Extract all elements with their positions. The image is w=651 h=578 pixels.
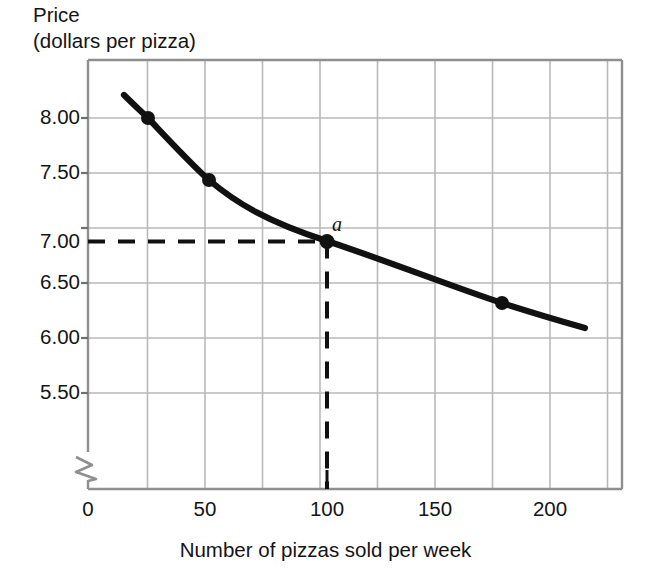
x-tick-label-200: 200 [518, 497, 582, 521]
x-tick-label-0: 0 [56, 497, 120, 521]
x-axis-title: Number of pizzas sold per week [0, 538, 651, 562]
data-point-100-7-00 [320, 234, 335, 249]
data-point-25-8-00 [141, 111, 155, 125]
y-tick-label-6-50: 6.50 [8, 270, 80, 294]
y-tick-label-6-00: 6.00 [8, 325, 80, 349]
x-tick-label-100: 100 [295, 497, 359, 521]
y-tick-label-7-00: 7.00 [8, 229, 80, 253]
y-tick-label-8-00: 8.00 [8, 105, 80, 129]
y-tick-label-7-50: 7.50 [8, 160, 80, 184]
x-tick-label-150: 150 [403, 497, 467, 521]
chart-figure: Price(dollars per pizza) [0, 0, 651, 578]
y-tick-label-5-50: 5.50 [8, 380, 80, 404]
plot-area [0, 0, 651, 578]
x-tick-label-50: 50 [173, 497, 237, 521]
annotation-label-a: a [332, 213, 342, 236]
plot-background [88, 60, 622, 489]
data-point-52-7-50 [202, 173, 216, 187]
data-point-175-6-50 [495, 296, 509, 310]
